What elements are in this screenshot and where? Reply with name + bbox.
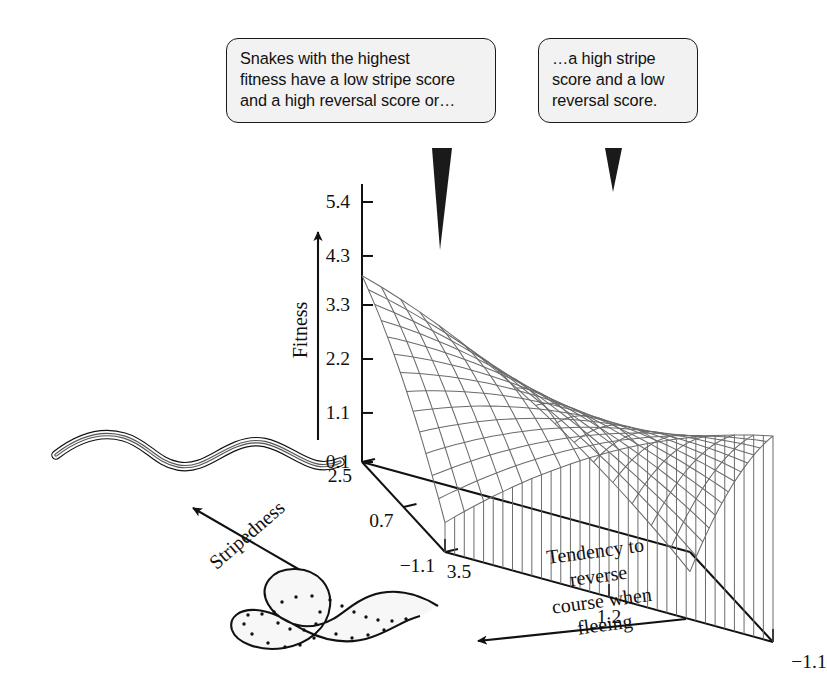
reverse-tick-1.2: 1.2	[597, 606, 621, 628]
stripedness-tick-−1.1: −1.1	[400, 555, 435, 577]
callout-1-pointer	[432, 148, 452, 250]
callout-1-text: Snakes with the highest fitness have a l…	[240, 48, 483, 112]
callout-2-pointer	[605, 148, 622, 192]
fitness-tick-5.4: 5.4	[326, 191, 350, 213]
fitness-tick-2.2: 2.2	[326, 348, 350, 370]
stripedness-tick-2.5: 2.5	[328, 465, 352, 487]
reverse-course-axis-title: Tendency to reverse course when fleeing	[517, 529, 684, 648]
fitness-tick-3.3: 3.3	[326, 294, 350, 316]
fitness-axis-title: Fitness	[289, 302, 312, 359]
reverse-tick-3.5: 3.5	[447, 561, 471, 583]
callout-low-stripe-high-reversal: Snakes with the highest fitness have a l…	[226, 38, 496, 123]
stripedness-tick-0.7: 0.7	[369, 510, 393, 532]
reverse-tick-−1.1: −1.1	[791, 651, 826, 673]
callout-2-text: …a high stripe score and a low reversal …	[552, 48, 685, 112]
fitness-tick-1.1: 1.1	[326, 402, 350, 424]
callout-high-stripe-low-reversal: …a high stripe score and a low reversal …	[538, 38, 698, 123]
fitness-tick-4.3: 4.3	[326, 245, 350, 267]
